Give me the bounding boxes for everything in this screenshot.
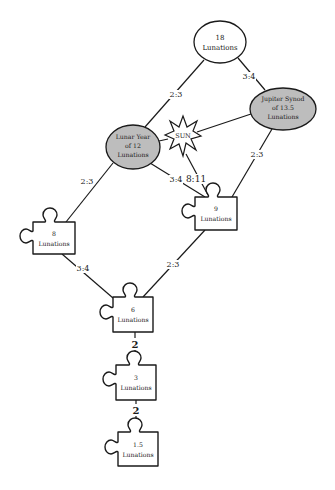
edge-sun-to-jupiter (197, 114, 251, 132)
node-jupiter-line1: Jupiter Synod (261, 95, 305, 103)
node-lunar-year-line3: Lunations (117, 151, 148, 158)
node-jupiter-line3: Lunations (267, 113, 298, 120)
edge-label-18-lunar-year: 2:3 (170, 90, 183, 99)
node-jupiter-synod: Jupiter Synod of 13.5 Lunations (250, 88, 316, 130)
node-8-lunations: 8 Lunations (20, 208, 75, 254)
edge-label-8-6: 3:4 (77, 264, 90, 273)
node-sun: SUN (165, 116, 201, 156)
edge-label-lunar-year-8: 2:3 (81, 177, 94, 186)
node-9-lunations: 9 Lunations (182, 183, 237, 230)
node-8-line1: 8 (52, 230, 56, 237)
puzzle-piece-1-5-icon (105, 418, 158, 466)
node-1-5-line2: Lunations (122, 451, 153, 458)
node-3-lunations: 3 Lunations (103, 351, 156, 400)
edge-labels: 2:3 3:4 2:3 3:4 8:11 2:3 3:4 2:3 2 2 (76, 72, 264, 416)
edge-label-9-6: 2:3 (167, 260, 180, 269)
node-lunar-year-line2: of 12 (125, 142, 141, 149)
edge-label-18-jupiter: 3:4 (243, 72, 256, 81)
edges (62, 58, 272, 421)
node-3-line1: 3 (134, 374, 138, 381)
puzzle-piece-6-icon (100, 283, 153, 332)
node-9-line2: Lunations (200, 215, 231, 222)
node-lunar-year: Lunar Year of 12 Lunations (106, 125, 160, 169)
node-6-lunations: 6 Lunations (100, 283, 153, 332)
edge-lunar-year-to-8 (66, 163, 113, 222)
edge-8-to-6 (62, 254, 113, 298)
node-1-5-lunations: 1.5 Lunations (105, 418, 158, 466)
puzzle-piece-3-icon (103, 351, 156, 400)
node-18-line1: 18 (216, 34, 225, 42)
node-lunar-year-line1: Lunar Year (116, 133, 151, 140)
edge-label-6-3: 2 (132, 339, 139, 350)
edge-label-sun-9: 8:11 (186, 174, 206, 184)
edge-label-lunar-year-9: 3:4 (170, 175, 183, 184)
node-jupiter-line2: of 13.5 (272, 104, 294, 111)
node-3-line2: Lunations (120, 384, 151, 391)
puzzle-piece-9-icon (182, 183, 237, 230)
lunation-ratio-diagram: 2:3 3:4 2:3 3:4 8:11 2:3 3:4 2:3 2 2 18 … (0, 0, 335, 490)
node-18-line2: Lunations (202, 44, 238, 52)
edge-lunar-year-to-sun (159, 139, 168, 141)
puzzle-piece-8-icon (20, 208, 75, 254)
edge-label-3-1-5: 2 (133, 405, 140, 416)
edge-jupiter-to-9 (232, 129, 272, 197)
node-6-line2: Lunations (117, 316, 148, 323)
sun-label: SUN (175, 132, 191, 140)
node-8-line2: Lunations (38, 240, 69, 247)
node-9-line1: 9 (214, 205, 218, 212)
node-18-lunations: 18 Lunations (194, 21, 246, 63)
edge-label-jupiter-9: 2:3 (251, 150, 264, 159)
ellipse-18-lunations (194, 21, 246, 63)
node-6-line1: 6 (131, 306, 135, 313)
node-1-5-line1: 1.5 (133, 441, 143, 448)
